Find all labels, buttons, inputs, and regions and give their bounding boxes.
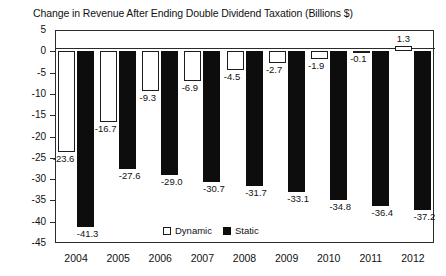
y-axis-tick-mark bbox=[50, 51, 56, 52]
y-axis-tick-mark bbox=[50, 115, 56, 116]
y-axis-tick-mark bbox=[50, 137, 56, 138]
bar-static-2007 bbox=[203, 51, 220, 182]
bar-value-label: 1.3 bbox=[381, 33, 425, 44]
legend-label-dynamic: Dynamic bbox=[175, 225, 212, 236]
bar-dynamic-2010 bbox=[311, 51, 328, 59]
y-axis-tick-label: -20 bbox=[20, 131, 46, 142]
x-axis-tick-label: 2012 bbox=[383, 252, 443, 264]
chart-title: Change in Revenue After Ending Double Di… bbox=[33, 7, 353, 19]
legend-label-static: Static bbox=[235, 225, 259, 236]
bar-static-2011 bbox=[372, 51, 389, 206]
bar-dynamic-2005 bbox=[100, 51, 117, 122]
bar-dynamic-2007 bbox=[184, 51, 201, 80]
bar-static-2004 bbox=[77, 51, 94, 227]
y-axis-tick-label: 0 bbox=[20, 45, 46, 56]
bar-dynamic-2006 bbox=[142, 51, 159, 91]
bar-value-label: -41.3 bbox=[66, 228, 110, 239]
chart-legend: Dynamic Static bbox=[163, 225, 259, 236]
bar-value-label: -34.8 bbox=[318, 201, 362, 212]
y-axis-tick-mark bbox=[50, 179, 56, 180]
y-axis-tick-mark bbox=[50, 222, 56, 223]
y-axis-tick-label: -45 bbox=[20, 237, 46, 248]
bar-value-label: -37.2 bbox=[402, 211, 446, 222]
y-axis-tick-mark bbox=[50, 73, 56, 74]
legend-item-static: Static bbox=[223, 225, 259, 236]
bar-value-label: -27.6 bbox=[108, 170, 152, 181]
bar-static-2012 bbox=[414, 51, 431, 209]
bar-dynamic-2008 bbox=[227, 51, 244, 70]
bar-static-2006 bbox=[161, 51, 178, 175]
y-axis-tick-label: -30 bbox=[20, 173, 46, 184]
zero-baseline bbox=[55, 48, 435, 49]
bar-static-2005 bbox=[119, 51, 136, 169]
y-axis-tick-label: -5 bbox=[20, 67, 46, 78]
y-axis-tick-label: -35 bbox=[20, 194, 46, 205]
legend-swatch-dynamic-icon bbox=[163, 227, 171, 235]
y-axis-tick-label: -15 bbox=[20, 109, 46, 120]
bar-dynamic-2012 bbox=[395, 46, 412, 52]
revenue-change-bar-chart: Change in Revenue After Ending Double Di… bbox=[0, 0, 446, 276]
bar-static-2008 bbox=[246, 51, 263, 186]
y-axis-tick-label: -40 bbox=[20, 216, 46, 227]
bar-value-label: -30.7 bbox=[192, 183, 236, 194]
y-axis-tick-mark bbox=[50, 94, 56, 95]
bar-value-label: -33.1 bbox=[276, 193, 320, 204]
bar-dynamic-2009 bbox=[269, 51, 286, 63]
bar-value-label: -29.0 bbox=[150, 176, 194, 187]
bar-dynamic-2004 bbox=[58, 51, 75, 152]
bar-value-label: -36.4 bbox=[360, 207, 404, 218]
bar-static-2009 bbox=[288, 51, 305, 192]
legend-swatch-static-icon bbox=[223, 227, 231, 235]
bar-static-2010 bbox=[330, 51, 347, 199]
y-axis-tick-mark bbox=[50, 200, 56, 201]
legend-item-dynamic: Dynamic bbox=[163, 225, 212, 236]
y-axis-tick-label: -10 bbox=[20, 88, 46, 99]
y-axis-tick-label: 5 bbox=[20, 24, 46, 35]
bar-value-label: -31.7 bbox=[234, 187, 278, 198]
